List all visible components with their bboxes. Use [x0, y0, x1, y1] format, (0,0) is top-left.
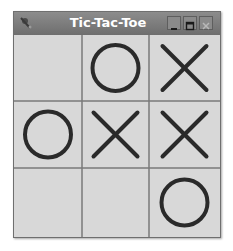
board-cell-0-2[interactable] — [149, 35, 220, 101]
board-cell-2-2[interactable] — [149, 168, 220, 237]
board-cell-2-1[interactable] — [82, 168, 149, 237]
board-cell-2-0[interactable] — [14, 168, 82, 237]
board-cell-1-2[interactable] — [149, 101, 220, 168]
board-cell-0-0[interactable] — [14, 35, 82, 101]
title-bar[interactable]: Tic-Tac-Toe — [14, 12, 220, 35]
close-button[interactable] — [199, 16, 213, 30]
minimize-icon — [168, 20, 180, 32]
minimize-button[interactable] — [167, 16, 181, 30]
game-window: Tic-Tac-Toe — [13, 11, 221, 238]
game-board — [14, 35, 220, 237]
board-cell-1-0[interactable] — [14, 101, 82, 168]
maximize-icon — [184, 20, 196, 32]
close-icon — [200, 20, 212, 32]
maximize-button[interactable] — [183, 16, 197, 30]
board-cell-1-1[interactable] — [82, 101, 149, 168]
board-cell-0-1[interactable] — [82, 35, 149, 101]
